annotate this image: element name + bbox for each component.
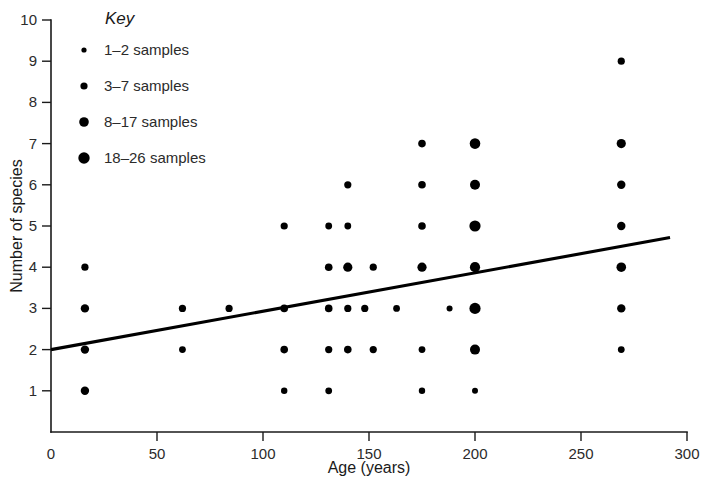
data-point [325,305,333,313]
data-point [81,387,89,395]
data-point [419,346,426,353]
data-point [617,222,625,230]
data-point [361,305,368,312]
chart-canvas: 12345678910 050100150200250300 Key1–2 sa… [0,0,705,484]
data-point [325,263,333,271]
data-point [343,263,352,272]
data-point [281,388,287,394]
data-point [81,304,89,312]
y-tick-label: 4 [29,258,37,275]
legend-label-2: 3–7 samples [104,77,189,94]
data-point [325,223,332,230]
y-tick-label: 7 [29,135,37,152]
data-point [225,305,232,312]
data-point [370,346,377,353]
data-point [618,346,625,353]
data-point [344,181,351,188]
y-tick-label: 6 [29,176,37,193]
data-point [179,346,186,353]
data-point [418,140,426,148]
x-tick-label: 250 [568,445,593,462]
data-point [81,264,88,271]
data-point [470,345,480,355]
legend-dot-4 [78,152,89,163]
data-point [81,345,89,353]
regression-trend-line [51,238,670,350]
data-point [325,387,332,394]
x-tick-label: 50 [149,445,166,462]
data-point [617,304,625,312]
y-tick-label: 5 [29,217,37,234]
y-tick-label: 2 [29,341,37,358]
legend-dot-1 [81,47,86,52]
data-point [344,223,351,230]
data-point [618,58,625,65]
data-point [280,346,288,354]
legend-title: Key [105,9,136,28]
legend-dot-2 [80,82,87,89]
data-point [344,346,352,354]
data-point [447,305,453,311]
data-points-group [81,58,626,395]
y-tick-label: 9 [29,52,37,69]
data-point [469,303,480,314]
data-point [344,305,351,312]
data-point [470,138,481,149]
x-tick-label: 200 [462,445,487,462]
legend-group: Key1–2 samples3–7 samples8–17 samples18–… [78,9,205,166]
scatter-plot-figure: 12345678910 050100150200250300 Key1–2 sa… [0,0,705,484]
data-point [325,346,332,353]
y-tick-label: 3 [29,299,37,316]
x-tick-label: 300 [674,445,699,462]
data-point [370,264,377,271]
y-tick-label: 1 [29,382,37,399]
data-point [617,181,625,189]
data-point [472,388,478,394]
x-axis-ticks: 050100150200250300 [47,432,700,462]
x-tick-label: 0 [47,445,55,462]
x-axis-title: Age (years) [328,459,411,476]
data-point [419,388,425,394]
y-axis-title: Number of species [8,159,25,292]
data-point [617,139,626,148]
data-point [393,305,400,312]
data-point [469,220,480,231]
data-point [616,262,626,272]
legend-label-4: 18–26 samples [104,149,206,166]
data-point [281,222,288,229]
legend-label-3: 8–17 samples [104,113,197,130]
data-point [470,180,480,190]
x-tick-label: 100 [250,445,275,462]
data-point [179,305,186,312]
data-point [418,222,426,230]
data-point [417,263,426,272]
legend-dot-3 [79,117,89,127]
legend-label-1: 1–2 samples [104,41,189,58]
y-tick-label: 10 [20,11,37,28]
y-tick-label: 8 [29,93,37,110]
data-point [418,181,426,189]
